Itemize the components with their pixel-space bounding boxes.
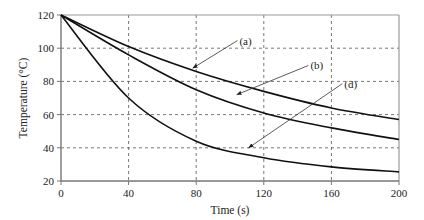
annotation-arrow: [249, 84, 343, 148]
x-tick-label: 200: [391, 187, 408, 199]
annotation-label: (a): [239, 35, 252, 48]
y-tick-label: 80: [43, 75, 55, 87]
y-tick-label: 20: [43, 175, 55, 187]
x-tick-label: 160: [323, 187, 340, 199]
y-tick-label: 60: [43, 109, 55, 121]
annotation-label: (b): [310, 59, 323, 72]
annotation-arrow: [193, 41, 238, 69]
y-tick-label: 40: [43, 142, 55, 154]
annotation-arrow: [237, 65, 309, 94]
x-tick-label: 80: [191, 187, 203, 199]
y-tick-label: 100: [38, 42, 55, 54]
y-tick-label: 120: [38, 9, 55, 21]
x-tick-label: 40: [123, 187, 135, 199]
y-axis-title: Temperature (°C): [17, 57, 30, 138]
curve-a: [61, 15, 399, 120]
temperature-chart: 2040608010012004080120160200Time (s)Temp…: [0, 0, 424, 220]
x-axis-title: Time (s): [211, 204, 250, 217]
x-tick-label: 120: [256, 187, 273, 199]
annotation-label: (d): [344, 78, 357, 91]
x-tick-label: 0: [58, 187, 64, 199]
